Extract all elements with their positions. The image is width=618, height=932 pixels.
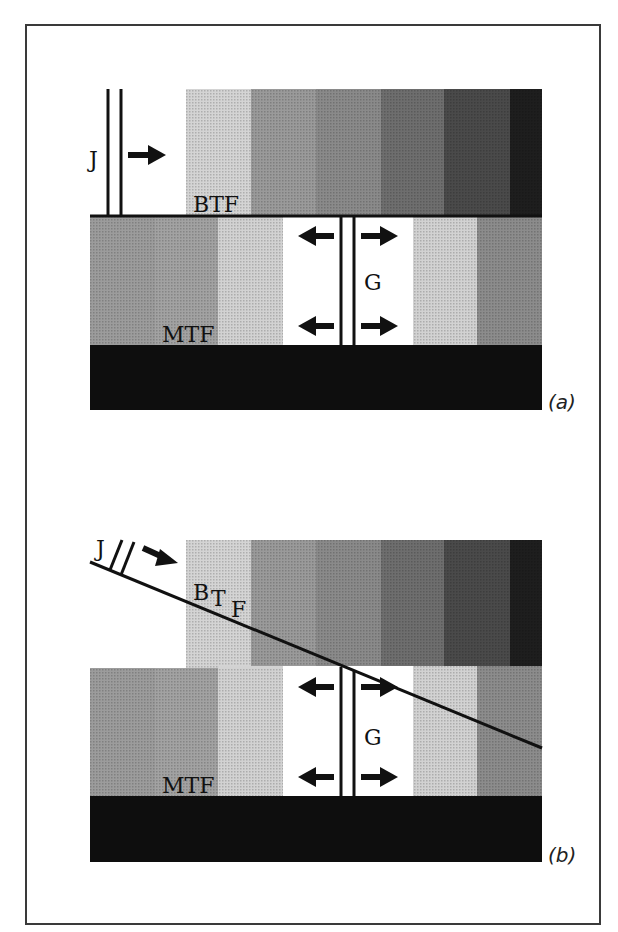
bottom-band	[90, 345, 542, 410]
panel-a: J BTF MTF G (a)	[87, 89, 576, 414]
arrow-right-icon	[128, 145, 166, 165]
panel-b: J B T F MTF G (b)	[90, 536, 576, 867]
caption-a: (a)	[548, 390, 576, 414]
label-g: G	[364, 725, 382, 750]
boundary-j	[108, 89, 121, 216]
label-g: G	[364, 270, 382, 295]
label-btf-t: T	[211, 586, 226, 611]
label-mtf: MTF	[162, 322, 214, 347]
bottom-band	[90, 796, 542, 862]
arrow-diagonal-icon	[143, 548, 178, 566]
label-btf-f: F	[231, 597, 246, 622]
label-btf: BTF	[193, 192, 239, 217]
figure-canvas: J BTF MTF G (a)	[0, 0, 618, 932]
upper-band-stripes	[186, 89, 542, 216]
label-mtf: MTF	[162, 773, 214, 798]
label-j: J	[87, 147, 98, 172]
caption-b: (b)	[548, 843, 576, 867]
label-j: J	[94, 536, 105, 561]
label-btf-b: B	[193, 580, 209, 605]
boundary-j	[110, 540, 134, 575]
